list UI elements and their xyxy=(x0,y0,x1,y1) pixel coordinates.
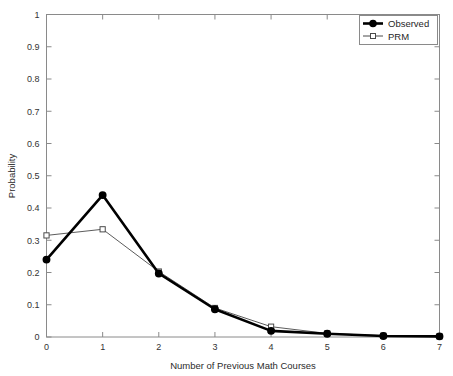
data-point-marker-square-icon xyxy=(44,233,49,238)
data-point-marker-circle-icon xyxy=(212,306,218,312)
y-tick-label: 0.4 xyxy=(27,203,40,213)
x-tick-label: 3 xyxy=(212,342,217,352)
y-tick-label: 0.9 xyxy=(27,42,40,52)
x-axis-ticks: 01234567 xyxy=(44,15,442,353)
x-tick-label: 6 xyxy=(381,342,386,352)
data-point-marker-circle-icon xyxy=(436,333,442,339)
y-tick-label: 0.3 xyxy=(27,236,40,246)
x-tick-label: 2 xyxy=(156,342,161,352)
y-axis-title: Probability xyxy=(6,154,17,199)
x-tick-label: 7 xyxy=(437,342,442,352)
data-point-marker-circle-icon xyxy=(324,331,330,337)
legend-marker-square-icon xyxy=(371,34,376,39)
legend[interactable]: Observed PRM xyxy=(360,16,438,45)
chart-figure: 00.10.20.30.40.50.60.70.80.91 01234567 N… xyxy=(0,0,453,376)
data-point-marker-circle-icon xyxy=(380,333,386,339)
x-tick-label: 5 xyxy=(325,342,330,352)
x-tick-label: 0 xyxy=(44,342,49,352)
y-tick-label: 0.1 xyxy=(27,300,40,310)
series-line xyxy=(47,195,440,336)
y-tick-label: 0.5 xyxy=(27,171,40,181)
data-point-marker-circle-icon xyxy=(43,256,49,262)
y-tick-label: 0 xyxy=(34,332,39,342)
data-point-marker-square-icon xyxy=(100,227,105,232)
x-tick-label: 4 xyxy=(269,342,274,352)
data-point-marker-circle-icon xyxy=(268,328,274,334)
y-tick-label: 0.2 xyxy=(27,268,40,278)
legend-marker-circle-icon xyxy=(370,20,376,26)
legend-label-observed: Observed xyxy=(388,18,429,29)
series-prm xyxy=(44,227,442,339)
x-axis-title: Number of Previous Math Courses xyxy=(170,360,316,371)
data-point-marker-circle-icon xyxy=(99,192,105,198)
y-tick-label: 1 xyxy=(34,10,39,20)
y-tick-label: 0.8 xyxy=(27,74,40,84)
data-point-marker-circle-icon xyxy=(156,270,162,276)
y-tick-label: 0.6 xyxy=(27,139,40,149)
legend-label-prm: PRM xyxy=(388,31,409,42)
chart-canvas: 00.10.20.30.40.50.60.70.80.91 01234567 N… xyxy=(0,0,453,376)
y-tick-label: 0.7 xyxy=(27,107,40,117)
y-axis-ticks: 00.10.20.30.40.50.60.70.80.91 xyxy=(27,10,440,343)
x-tick-label: 1 xyxy=(100,342,105,352)
plot-frame xyxy=(47,15,440,338)
